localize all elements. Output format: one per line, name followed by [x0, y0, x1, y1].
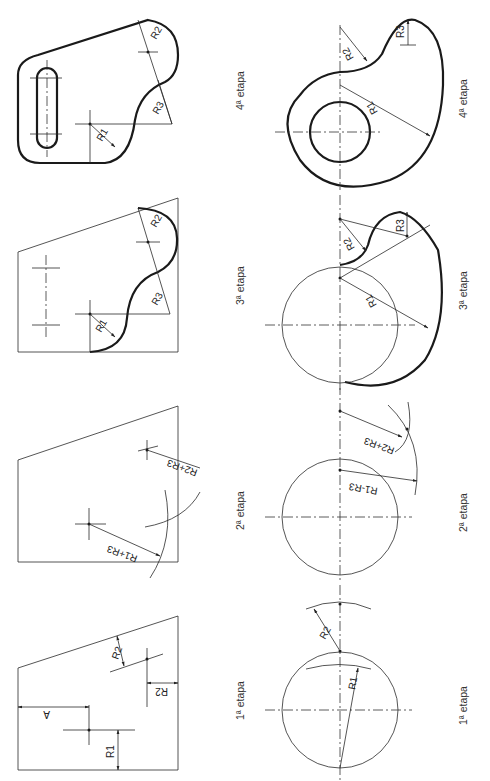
dim-a: A — [43, 709, 50, 720]
stage-label-4-right: 4ª etapa — [457, 79, 469, 118]
dim-r3: R3 — [150, 99, 166, 116]
stage-label-2-left: 2ª etapa — [234, 491, 246, 530]
dim-r1: R1 — [364, 100, 380, 117]
left-stage4-part: R1 R2 R3 — [18, 20, 178, 163]
technical-drawing: R1 R2 R3 R1 R2 R3 R1+R3 R2+R3 — [0, 0, 490, 781]
dim-r1: R1 — [346, 675, 359, 690]
right-stage4-part: R1 R2 R3 — [275, 20, 443, 190]
dim-r2: R2 — [317, 624, 333, 641]
dim-r3: R3 — [149, 290, 165, 307]
right-stage3-part: R2 R1 R3 — [265, 195, 442, 390]
left-stage2-part: R1+R3 R2+R3 — [18, 406, 200, 578]
right-stage1-part: R2 R1 — [265, 585, 412, 781]
left-stage1-part: A R1 R2 R2 — [18, 616, 178, 770]
stage-label-3-right: 3ª etapa — [457, 271, 469, 310]
stage-label-2-right: 2ª etapa — [457, 493, 469, 532]
dim-r3: R3 — [395, 219, 406, 232]
stage-label-4-left: 4ª etapa — [234, 71, 246, 110]
dim-r3: R3 — [395, 25, 406, 38]
dim-r1-plus-r3: R1+R3 — [105, 543, 139, 564]
stage-label-1-left: 1ª etapa — [234, 681, 246, 720]
dim-r1-minus-r3: R1-R3 — [348, 481, 379, 497]
dim-r2: R2 — [341, 236, 357, 253]
stage-label-3-left: 3ª etapa — [234, 266, 246, 305]
right-stage2-part: R2+R3 R1-R3 — [265, 385, 417, 580]
dim-r1: R1 — [363, 293, 379, 310]
dim-r2-plus-r3: R2+R3 — [165, 457, 199, 478]
left-stage3-part: R1 R2 R3 — [18, 198, 178, 352]
dim-r2-plus-r3: R2+R3 — [362, 435, 396, 456]
stage-label-1-right: 1ª etapa — [457, 686, 469, 725]
dim-r2: R2 — [340, 46, 356, 63]
dim-r1: R1 — [105, 745, 116, 758]
dim-r2: R2 — [148, 24, 164, 41]
dim-r2-right: R2 — [155, 686, 168, 697]
